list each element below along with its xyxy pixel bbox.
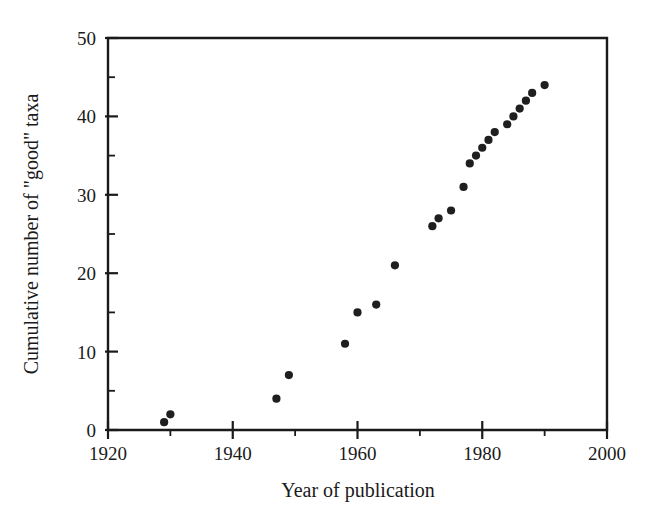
data-point <box>509 112 517 120</box>
x-axis-tick-labels: 19201940196019802000 <box>89 443 626 464</box>
data-point <box>503 120 511 128</box>
data-point <box>285 371 293 379</box>
data-point <box>166 410 174 418</box>
data-point <box>428 222 436 230</box>
data-point <box>447 206 455 214</box>
y-axis-title: Cumulative number of "good" taxa <box>20 94 43 375</box>
data-point <box>516 104 524 112</box>
data-point <box>541 81 549 89</box>
x-tick-label: 2000 <box>588 443 626 464</box>
data-point <box>472 152 480 160</box>
data-point-series <box>160 81 549 426</box>
y-tick-label: 10 <box>77 342 96 363</box>
data-point <box>528 89 536 97</box>
data-point <box>272 395 280 403</box>
y-axis-tick-labels: 01020304050 <box>77 28 96 441</box>
plot-canvas: 19201940196019802000 01020304050 Year of… <box>0 0 657 523</box>
data-point <box>459 183 467 191</box>
data-point <box>522 97 530 105</box>
data-point <box>372 300 380 308</box>
x-axis-title: Year of publication <box>281 479 435 502</box>
data-point <box>353 308 361 316</box>
data-point <box>466 159 474 167</box>
x-tick-label: 1960 <box>339 443 377 464</box>
y-tick-label: 40 <box>77 106 96 127</box>
y-tick-label: 20 <box>77 263 96 284</box>
y-tick-label: 30 <box>77 185 96 206</box>
data-point <box>491 128 499 136</box>
scatter-plot-figure: 19201940196019802000 01020304050 Year of… <box>0 0 657 523</box>
y-tick-label: 0 <box>87 420 97 441</box>
x-tick-label: 1980 <box>463 443 501 464</box>
y-tick-label: 50 <box>77 28 96 49</box>
data-point <box>160 418 168 426</box>
data-point <box>391 261 399 269</box>
x-tick-label: 1920 <box>89 443 127 464</box>
data-point <box>341 340 349 348</box>
data-point <box>478 144 486 152</box>
x-tick-label: 1940 <box>214 443 252 464</box>
data-point <box>434 214 442 222</box>
data-point <box>484 136 492 144</box>
